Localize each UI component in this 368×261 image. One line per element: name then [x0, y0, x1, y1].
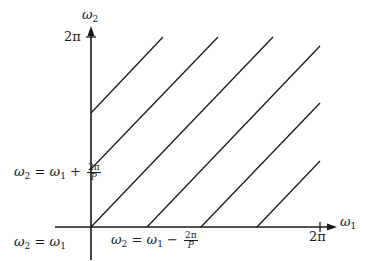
diagonal-line-3 [91, 37, 273, 227]
ann-minus-lhs: ω [111, 232, 122, 247]
ann-minus-op: − [163, 232, 182, 247]
x-axis-label: ω1 [340, 215, 356, 231]
ann-main-rhs: ω [50, 234, 61, 249]
ann-main-lhs: ω [14, 234, 25, 249]
x-axis-label-sub: 1 [351, 221, 357, 231]
ann-plus-lhs: ω [14, 164, 25, 179]
ann-main-rhs-sub: 1 [60, 241, 66, 251]
ann-minus-eq: = [127, 232, 146, 247]
ann-minus-den: P [184, 241, 198, 250]
diagonal-line-6 [257, 161, 320, 227]
ann-minus-rhs: ω [147, 232, 158, 247]
ann-plus-den: P [87, 173, 101, 182]
ann-main-eq: = [30, 234, 49, 249]
ann-plus-op: + [66, 164, 85, 179]
ann-plus-fraction: 2πP [87, 163, 101, 182]
diagonal-line-1 [91, 37, 163, 113]
diagram-canvas [0, 0, 368, 261]
y-axis-arrow-icon [88, 26, 95, 36]
annotation-main: ω2 = ω1 [14, 235, 66, 251]
diagonal-line-5 [201, 103, 320, 227]
x-axis-label-symbol: ω [340, 214, 351, 229]
y-axis-label-sub: 2 [93, 14, 99, 24]
ann-plus-rhs: ω [50, 164, 61, 179]
annotation-plus: ω2 = ω1 + 2πP [14, 163, 101, 182]
x-axis-arrow-icon [327, 224, 337, 231]
y-axis-label: ω2 [82, 8, 98, 24]
ann-minus-fraction: 2πP [184, 231, 198, 250]
x-tick-label: 2π [309, 230, 326, 243]
y-tick-label: 2π [64, 30, 81, 43]
y-axis-label-symbol: ω [82, 7, 93, 22]
annotation-minus: ω2 = ω1 − 2πP [111, 231, 198, 250]
ann-plus-eq: = [30, 164, 49, 179]
diagonal-line-2 [91, 37, 218, 169]
diagonal-line-4 [147, 46, 320, 227]
